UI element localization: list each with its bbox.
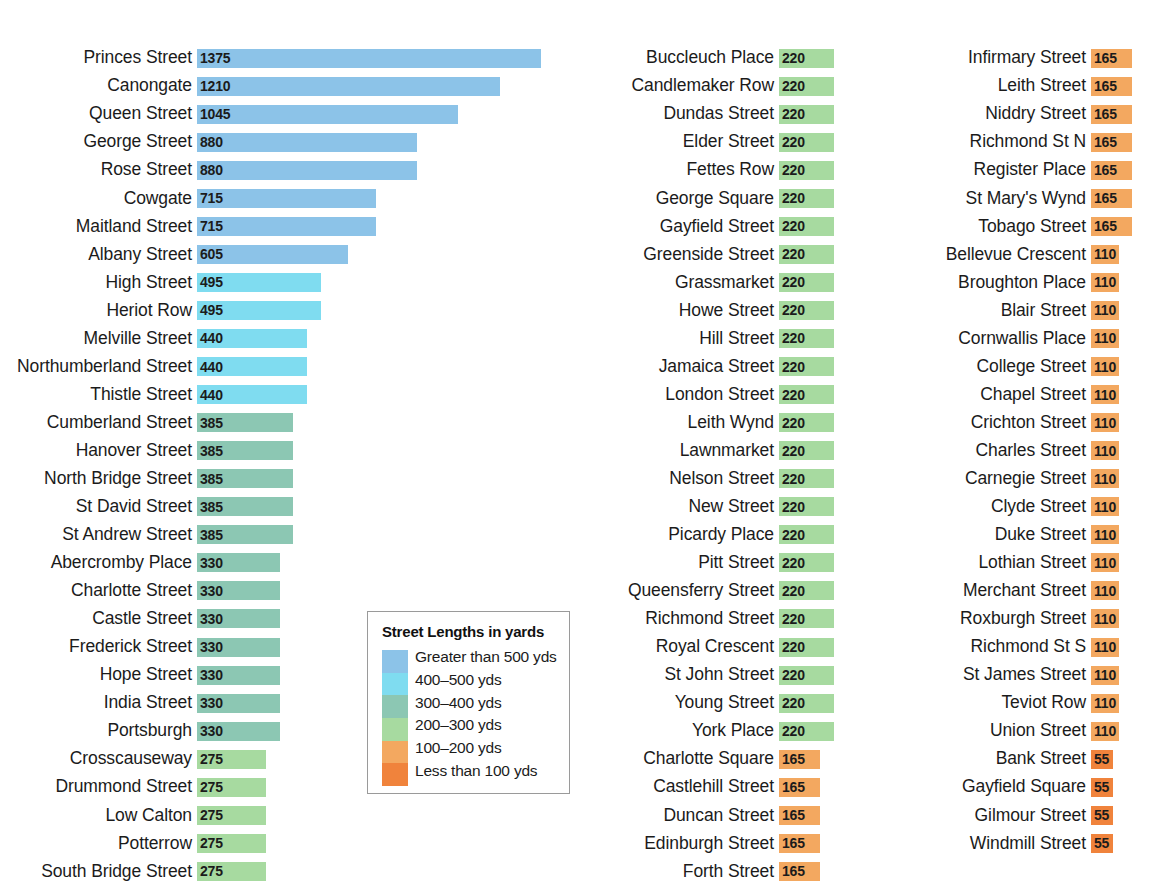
legend-item-label: 300–400 yds: [415, 691, 557, 714]
bar-row: Union Street110: [924, 717, 1173, 745]
bar-category-label: Elder Street: [608, 133, 779, 151]
bar: 220: [779, 413, 834, 432]
bar-value-label: 220: [779, 612, 805, 626]
bar-category-label: Drummond Street: [0, 778, 197, 796]
bar-row: Gilmour Street55: [924, 801, 1173, 829]
bar-row: Princes Street1375: [0, 44, 560, 72]
bar-category-label: Teviot Row: [924, 694, 1091, 712]
bar-value-label: 220: [779, 668, 805, 682]
bar-value-label: 330: [197, 696, 223, 710]
legend-item-label: Less than 100 yds: [415, 759, 557, 782]
bar-category-label: York Place: [608, 722, 779, 740]
bar-value-label: 165: [1091, 107, 1117, 121]
bar-category-label: St John Street: [608, 666, 779, 684]
bar-value-label: 110: [1091, 360, 1116, 374]
bar: 110: [1091, 245, 1119, 264]
bar-category-label: Young Street: [608, 694, 779, 712]
bar-row: Charles Street110: [924, 437, 1173, 465]
bar-row: Edinburgh Street165: [608, 829, 908, 857]
bar-row: Register Place165: [924, 156, 1173, 184]
legend-swatch: [382, 741, 408, 764]
bar: 220: [779, 722, 834, 741]
bar: 385: [197, 497, 293, 516]
bar-row: Hill Street220: [608, 324, 908, 352]
bar: 440: [197, 329, 307, 348]
bar-value-label: 275: [197, 864, 223, 878]
bar-value-label: 165: [1091, 79, 1117, 93]
bar: 385: [197, 525, 293, 544]
legend-item-label: 400–500 yds: [415, 669, 557, 692]
bar-category-label: Pitt Street: [608, 554, 779, 572]
bar-category-label: Broughton Place: [924, 274, 1091, 292]
bar: 275: [197, 806, 266, 825]
bar-category-label: Queen Street: [0, 105, 197, 123]
bar-value-label: 110: [1091, 528, 1116, 542]
bar: 110: [1091, 329, 1119, 348]
bar-category-label: St James Street: [924, 666, 1091, 684]
bar-value-label: 495: [197, 303, 223, 317]
bar-row: Bank Street55: [924, 745, 1173, 773]
bar-category-label: Howe Street: [608, 302, 779, 320]
bar-row: Maitland Street715: [0, 212, 560, 240]
bar-value-label: 220: [779, 191, 805, 205]
bar-value-label: 165: [1091, 135, 1117, 149]
bar-value-label: 110: [1091, 668, 1116, 682]
bar-category-label: Nelson Street: [608, 470, 779, 488]
bar-value-label: 220: [779, 584, 805, 598]
bar: 220: [779, 441, 834, 460]
bar-category-label: Hanover Street: [0, 442, 197, 460]
bar: 55: [1091, 834, 1113, 853]
bar-row: Bellevue Crescent110: [924, 240, 1173, 268]
bar: 165: [1091, 189, 1132, 208]
bar-value-label: 110: [1091, 612, 1116, 626]
bar-value-label: 220: [779, 444, 805, 458]
bar-value-label: 55: [1091, 780, 1109, 794]
bar-category-label: Candlemaker Row: [608, 77, 779, 95]
bar: 495: [197, 301, 321, 320]
bar-value-label: 165: [779, 808, 805, 822]
bar-row: Broughton Place110: [924, 268, 1173, 296]
bar: 715: [197, 217, 376, 236]
bar-value-label: 1210: [197, 79, 230, 93]
bar-row: Rose Street880: [0, 156, 560, 184]
bar-value-label: 220: [779, 247, 805, 261]
bar: 110: [1091, 525, 1119, 544]
bar-category-label: Portsburgh: [0, 722, 197, 740]
bar-category-label: Greenside Street: [608, 246, 779, 264]
bar: 110: [1091, 609, 1119, 628]
chart-legend: Street Lengths in yards Greater than 500…: [367, 611, 570, 794]
bar-row: Fettes Row220: [608, 156, 908, 184]
bar: 605: [197, 245, 348, 264]
bar: 55: [1091, 806, 1113, 825]
bar-row: Royal Crescent220: [608, 633, 908, 661]
bar-value-label: 165: [779, 864, 805, 878]
bar-value-label: 110: [1091, 472, 1116, 486]
bar-category-label: George Street: [0, 133, 197, 151]
bar-value-label: 220: [779, 696, 805, 710]
bar-row: Cumberland Street385: [0, 409, 560, 437]
bar: 220: [779, 638, 834, 657]
bar-row: Merchant Street110: [924, 577, 1173, 605]
bar-value-label: 220: [779, 360, 805, 374]
bar-row: North Bridge Street385: [0, 465, 560, 493]
bar-value-label: 220: [779, 528, 805, 542]
legend-item-label: 100–200 yds: [415, 737, 557, 760]
bar-value-label: 220: [779, 79, 805, 93]
bar-category-label: Low Calton: [0, 807, 197, 825]
bar-value-label: 110: [1091, 275, 1116, 289]
bar-row: Jamaica Street220: [608, 353, 908, 381]
bar-value-label: 220: [779, 331, 805, 345]
bar-value-label: 165: [779, 780, 805, 794]
bar-category-label: Rose Street: [0, 161, 197, 179]
bar-row: Nelson Street220: [608, 465, 908, 493]
bar: 330: [197, 722, 280, 741]
bar-category-label: Roxburgh Street: [924, 610, 1091, 628]
bar-row: Clyde Street110: [924, 493, 1173, 521]
bar-category-label: Niddry Street: [924, 105, 1091, 123]
bar: 110: [1091, 413, 1119, 432]
bar: 110: [1091, 273, 1119, 292]
bar: 110: [1091, 666, 1119, 685]
bar-value-label: 110: [1091, 556, 1116, 570]
bar: 330: [197, 609, 280, 628]
